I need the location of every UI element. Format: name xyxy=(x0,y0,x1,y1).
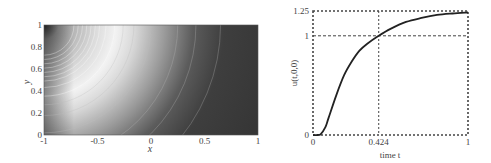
line-plot-x-label: time t xyxy=(380,150,401,160)
x-tick-label: 0.5 xyxy=(199,136,211,146)
x-tick-label: 1 xyxy=(256,136,261,146)
heatmap-y-label: y xyxy=(21,79,32,85)
y-tick-label: 0.6 xyxy=(31,64,43,74)
x-tick-label: 0 xyxy=(311,137,316,147)
y-tick-label: 0.4 xyxy=(31,86,43,96)
line-plot-y-label: u(t,0,0) xyxy=(289,60,299,87)
x-tick-label: 0.424 xyxy=(369,137,390,147)
y-tick-label: 0.8 xyxy=(31,42,43,52)
line-plot: 00.4241011.25 time t u(t,0,0) xyxy=(289,6,470,160)
y-tick-label: 1 xyxy=(38,20,43,30)
y-tick-label: 1 xyxy=(305,31,310,41)
line-plot-ticks: 00.4241011.25 xyxy=(293,6,470,147)
u-curve xyxy=(313,12,468,135)
heatmap-x-label: x xyxy=(147,143,153,154)
x-tick-label: 1 xyxy=(466,137,471,147)
x-tick-label: -0.5 xyxy=(90,136,105,146)
y-tick-label: 0 xyxy=(38,130,43,140)
heatmap-plot: -1-0.500.5100.20.40.60.81 x y xyxy=(0,0,260,163)
figure: -1-0.500.5100.20.40.60.81 x y 00.4241011… xyxy=(0,0,491,163)
y-tick-label: 0 xyxy=(305,130,310,140)
y-tick-label: 1.25 xyxy=(293,6,309,16)
y-tick-label: 0.2 xyxy=(31,108,42,118)
